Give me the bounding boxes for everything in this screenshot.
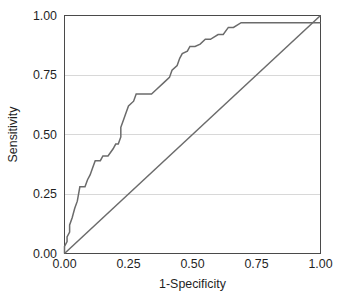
x-tick-label: 0.75 [244, 257, 268, 271]
x-tick-label: 0.50 [180, 257, 204, 271]
y-tick-label: 0.50 [33, 128, 57, 142]
x-axis-title: 1-Specificity [159, 277, 227, 291]
y-tick-label: 0.75 [33, 68, 57, 82]
roc-plot-svg: 0.000.250.500.751.00 0.000.250.500.751.0… [0, 0, 343, 306]
y-tick-label: 1.00 [33, 9, 57, 23]
roc-chart: 0.000.250.500.751.00 0.000.250.500.751.0… [0, 0, 343, 306]
y-tick-label: 0.00 [33, 247, 57, 261]
y-tick-label: 0.25 [33, 187, 57, 201]
x-tick-label: 0.25 [116, 257, 140, 271]
x-tick-label: 1.00 [308, 257, 332, 271]
y-axis-title: Sensitivity [6, 106, 20, 163]
